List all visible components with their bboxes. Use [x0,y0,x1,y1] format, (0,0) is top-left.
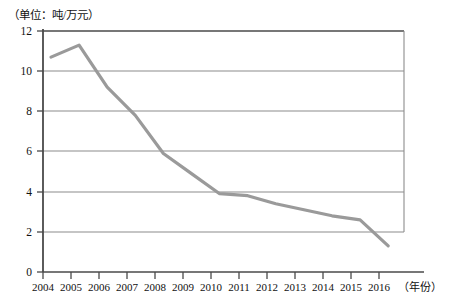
line-chart: （单位：吨/万元） 12 10 8 6 4 2 0 2004 2005 2006… [0,0,461,302]
data-series-line [51,45,388,246]
x-axis-ticks [43,272,379,279]
gridlines [43,31,404,232]
plot-area [0,0,461,302]
